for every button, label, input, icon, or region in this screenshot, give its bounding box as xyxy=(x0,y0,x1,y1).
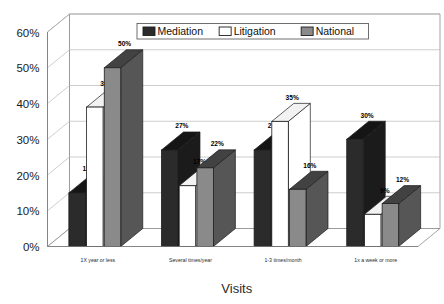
bar-front-face xyxy=(161,150,178,247)
legend-label-national: National xyxy=(316,25,355,37)
x-axis-category-label: 1X year or less xyxy=(81,257,116,263)
y-axis-tick-label: 30% xyxy=(16,134,39,146)
bar-value-label: 9% xyxy=(380,187,390,194)
y-axis-tick-label: 20% xyxy=(16,170,39,182)
bar-national-0[interactable] xyxy=(104,50,143,247)
bar-front-face xyxy=(254,150,270,247)
bar-value-label: 22% xyxy=(211,140,224,147)
bar-front-face xyxy=(272,121,289,246)
bar-value-label: 30% xyxy=(360,112,373,119)
x-axis-category-label: Several times/year xyxy=(169,257,212,263)
chart-legend: MediationLitigationNational xyxy=(137,24,368,40)
legend-swatch-litigation[interactable] xyxy=(219,27,231,36)
bar-national-1[interactable] xyxy=(197,150,236,247)
legend-swatch-mediation[interactable] xyxy=(143,27,155,36)
bar-front-face xyxy=(364,214,381,246)
bar-front-face xyxy=(104,68,121,247)
bar-front-face xyxy=(69,193,86,247)
x-axis-title: Visits xyxy=(221,281,252,296)
bar-front-face xyxy=(179,186,196,247)
bar-front-face xyxy=(382,204,399,247)
bar-value-label: 35% xyxy=(286,94,299,101)
chart-container: 0%10%20%30%40%50%60%15%39%50%1X year or … xyxy=(0,0,444,304)
y-axis-tick-label: 60% xyxy=(16,27,39,39)
bar-chart-3d: 0%10%20%30%40%50%60%15%39%50%1X year or … xyxy=(0,0,444,304)
bar-front-face xyxy=(347,139,364,246)
x-axis-category-label: 1x a week or more xyxy=(354,257,397,263)
bar-side-face xyxy=(121,50,143,247)
bar-front-face xyxy=(290,189,307,246)
bar-front-face xyxy=(87,107,104,246)
y-axis-tick-label: 0% xyxy=(23,241,40,253)
legend-label-litigation: Litigation xyxy=(234,25,276,37)
y-axis-tick-label: 40% xyxy=(16,98,39,110)
bar-front-face xyxy=(197,168,214,247)
legend-swatch-national[interactable] xyxy=(301,27,313,36)
bar-value-label: 16% xyxy=(303,162,316,169)
legend-label-mediation: Mediation xyxy=(158,25,204,37)
x-axis-category-label: 1-3 times/month xyxy=(264,257,301,263)
y-axis-tick-label: 10% xyxy=(16,205,39,217)
bar-value-label: 50% xyxy=(118,40,131,47)
y-axis-tick-label: 50% xyxy=(16,62,39,74)
bar-value-label: 27% xyxy=(175,122,188,129)
bar-value-label: 12% xyxy=(396,176,409,183)
